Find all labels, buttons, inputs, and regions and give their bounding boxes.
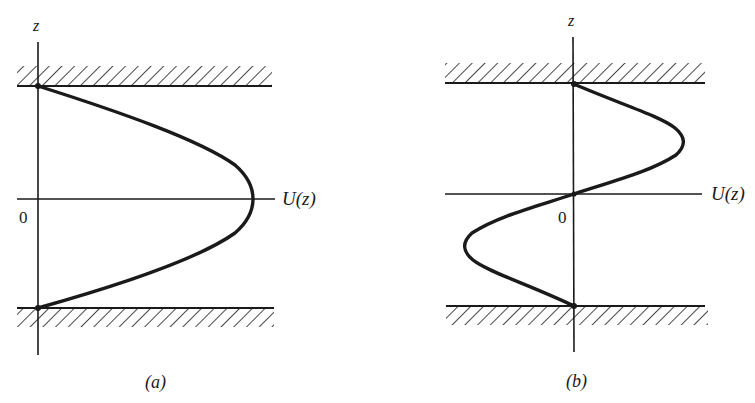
wall-contact-bottom-b [571, 303, 577, 309]
origin-label-b: 0 [558, 208, 567, 227]
origin-label-a: 0 [19, 208, 28, 227]
caption-a: (a) [145, 372, 166, 393]
bottom-wall-a [17, 308, 274, 327]
u-axis-label-a: U(z) [282, 188, 316, 210]
z-axis-label-a: z [32, 17, 40, 34]
velocity-profile-a [38, 86, 253, 308]
top-wall-b [445, 63, 705, 83]
panel-b: z U(z) 0 (b) [445, 12, 745, 392]
wall-contact-top-b [571, 81, 577, 87]
centerline-crossing-b [571, 191, 576, 196]
caption-b: (b) [566, 371, 587, 392]
z-axis-label-b: z [567, 12, 575, 29]
figure-canvas: z U(z) 0 (a) z U(z) 0 (b) [0, 0, 755, 403]
top-wall-a [17, 66, 272, 86]
panel-a: z U(z) 0 (a) [17, 17, 316, 393]
u-axis-label-b: U(z) [711, 183, 745, 205]
bottom-wall-b [446, 306, 708, 325]
wall-contact-bottom-a [35, 305, 41, 311]
wall-contact-top-a [35, 83, 41, 89]
